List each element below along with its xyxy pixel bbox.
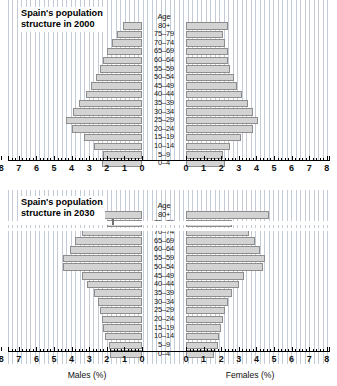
axis-minor-tick bbox=[61, 158, 62, 160]
male-bar bbox=[123, 22, 142, 29]
male-bar bbox=[107, 48, 142, 55]
axis-minor-tick bbox=[225, 349, 226, 351]
axis-minor-tick bbox=[121, 158, 122, 160]
axis-minor-tick bbox=[138, 349, 139, 351]
axis-tick-label: 5 bbox=[51, 354, 56, 364]
male-bar bbox=[98, 298, 142, 306]
axis-tick bbox=[309, 347, 310, 351]
axis-tick-label: 1 bbox=[201, 354, 206, 364]
female-bar bbox=[186, 316, 223, 324]
axis-tick bbox=[72, 347, 73, 351]
axis-minor-tick bbox=[263, 349, 264, 351]
axis-tick bbox=[221, 347, 222, 351]
female-bar bbox=[186, 298, 228, 306]
axis-minor-tick bbox=[260, 158, 261, 160]
male-bar bbox=[73, 108, 142, 115]
axis-minor-tick bbox=[242, 158, 243, 160]
female-bar bbox=[186, 125, 253, 132]
axis-minor-tick bbox=[316, 158, 317, 160]
female-bar bbox=[186, 342, 218, 350]
axis-minor-tick bbox=[302, 158, 303, 160]
render-artifact-stub bbox=[112, 219, 114, 225]
axis-tick bbox=[239, 156, 240, 160]
axis-minor-tick bbox=[96, 158, 97, 160]
axis-minor-tick bbox=[214, 349, 215, 351]
axis-tick-label: 5 bbox=[51, 163, 56, 173]
axis-minor-tick bbox=[260, 349, 261, 351]
axis-tick bbox=[327, 347, 328, 351]
axis-minor-tick bbox=[22, 158, 23, 160]
axis-minor-tick bbox=[117, 158, 118, 160]
male-bar bbox=[87, 281, 142, 289]
axis-minor-tick bbox=[82, 349, 83, 351]
female-bar bbox=[186, 22, 228, 29]
axis-tick bbox=[36, 347, 37, 351]
axis-tick-label: 2 bbox=[104, 163, 109, 173]
axis-minor-tick bbox=[313, 158, 314, 160]
axis-minor-tick bbox=[249, 349, 250, 351]
axis-minor-tick bbox=[235, 158, 236, 160]
female-bar bbox=[186, 31, 223, 38]
male-bar bbox=[79, 100, 142, 107]
female-bar bbox=[186, 263, 263, 271]
axis-minor-tick bbox=[47, 158, 48, 160]
axis-minor-tick bbox=[313, 349, 314, 351]
female-bar bbox=[186, 281, 239, 289]
female-bar bbox=[186, 74, 234, 81]
male-bar bbox=[70, 246, 142, 254]
axis-minor-tick bbox=[211, 158, 212, 160]
axis-minor-tick bbox=[65, 158, 66, 160]
axis-tick bbox=[309, 156, 310, 160]
axis-minor-tick bbox=[228, 349, 229, 351]
axis-minor-tick bbox=[43, 349, 44, 351]
axis-minor-tick bbox=[135, 349, 136, 351]
female-bar bbox=[186, 324, 221, 332]
female-bar bbox=[186, 82, 237, 89]
axis-cap-right bbox=[329, 347, 330, 352]
female-bar bbox=[186, 237, 255, 245]
axis-minor-tick bbox=[29, 158, 30, 160]
axis-minor-tick bbox=[193, 158, 194, 160]
axis-minor-tick bbox=[128, 349, 129, 351]
male-bar bbox=[82, 272, 142, 280]
female-bar bbox=[186, 57, 228, 64]
axis-tick bbox=[1, 156, 2, 160]
axis-minor-tick bbox=[190, 349, 191, 351]
axis-minor-tick bbox=[228, 158, 229, 160]
axis-minor-tick bbox=[82, 158, 83, 160]
axis-minor-tick bbox=[207, 349, 208, 351]
pyramid-panel-2030: Spain's population structure in 2030 Age… bbox=[0, 190, 337, 386]
axis-tick bbox=[256, 156, 257, 160]
axis-tick bbox=[124, 347, 125, 351]
female-bar bbox=[186, 91, 242, 98]
axis-tick-label: 5 bbox=[271, 354, 276, 364]
axis-minor-tick bbox=[232, 158, 233, 160]
axis-tick-label: 1 bbox=[201, 163, 206, 173]
male-bar bbox=[94, 143, 142, 150]
males-axis-title: Males (%) bbox=[68, 370, 107, 380]
axis-tick-label: 1 bbox=[122, 354, 127, 364]
axis-tick bbox=[239, 347, 240, 351]
axis-minor-tick bbox=[299, 158, 300, 160]
axis-tick bbox=[89, 347, 90, 351]
axis-tick-label: 8 bbox=[324, 163, 329, 173]
axis-minor-tick bbox=[285, 349, 286, 351]
axis-minor-tick bbox=[8, 158, 9, 160]
male-bar bbox=[103, 151, 142, 158]
axis-tick bbox=[36, 156, 37, 160]
axis-minor-tick bbox=[100, 349, 101, 351]
axis-tick-label: 5 bbox=[271, 163, 276, 173]
axis-tick-label: 7 bbox=[307, 354, 312, 364]
axis-minor-tick bbox=[121, 349, 122, 351]
female-bar bbox=[186, 134, 241, 141]
axis-tick bbox=[256, 347, 257, 351]
axis-minor-tick bbox=[278, 158, 279, 160]
female-bar bbox=[186, 272, 244, 280]
male-bar bbox=[103, 324, 142, 332]
axis-tick-label: 3 bbox=[236, 163, 241, 173]
female-bar bbox=[186, 289, 232, 297]
female-bar bbox=[186, 48, 228, 55]
axis-tick-label: 8 bbox=[0, 163, 4, 173]
axis-minor-tick bbox=[320, 158, 321, 160]
axis-minor-tick bbox=[193, 349, 194, 351]
